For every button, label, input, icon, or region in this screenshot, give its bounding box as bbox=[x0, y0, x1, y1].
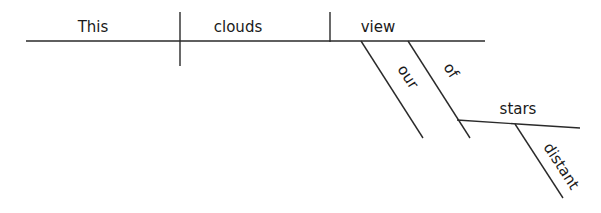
subject-word: This bbox=[77, 18, 109, 36]
sentence-diagram: This clouds view our of stars distant bbox=[0, 0, 601, 213]
preposition-of-word: of bbox=[440, 59, 463, 82]
modifier-our-line bbox=[361, 41, 423, 138]
prep-object-line bbox=[457, 120, 580, 128]
verb-word: clouds bbox=[214, 18, 263, 36]
object-word: view bbox=[361, 18, 396, 36]
prep-object-word: stars bbox=[500, 100, 537, 118]
modifier-our-word: our bbox=[394, 61, 423, 92]
adjective-distant-word: distant bbox=[540, 139, 583, 192]
preposition-of-line bbox=[408, 41, 470, 138]
